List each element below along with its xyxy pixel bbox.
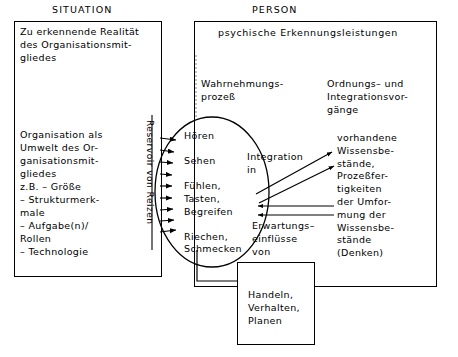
stimulus-arrows — [160, 138, 176, 232]
wahrnehmungsprozess-label: Wahrnehmungs- prozeß — [201, 77, 311, 103]
integration-label: Integration in — [247, 150, 327, 176]
header-situation: SITUATION — [52, 4, 112, 15]
senses-list-label: Hören Sehen Fühlen, Tasten, Begreifen Ri… — [184, 130, 256, 256]
diagram-canvas: SITUATION PERSON Zu erkennende Realität … — [0, 0, 458, 357]
ordnungsvorgaenge-label: Ordnungs– und Integrationsvor- gänge — [327, 77, 442, 116]
handeln-label: Handeln, Verhalten, Planen — [248, 288, 320, 327]
erwartungseinfluesse-label: Erwartungs– einflüsse von — [252, 219, 336, 258]
situation-organisation-text: Organisation als Umwelt des Or- ganisati… — [20, 128, 162, 258]
reservoir-label: Reservoir von Reizen — [145, 120, 155, 224]
situation-reality-text: Zu erkennende Realität des Organisations… — [20, 25, 160, 64]
header-person: PERSON — [252, 4, 298, 15]
wissensbestaende-label: vorhandene Wissensbe- stände, Prozeßfer-… — [337, 132, 447, 260]
person-box-title: psychische Erkennungsleistungen — [218, 26, 448, 39]
